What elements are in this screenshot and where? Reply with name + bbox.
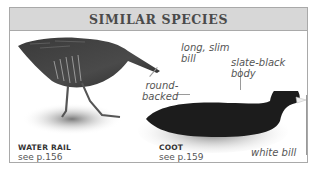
water-rail-name: WATER RAIL	[18, 143, 71, 152]
annotation-round-backed: round- backed	[142, 80, 178, 102]
section-title: SIMILAR SPECIES	[89, 12, 228, 27]
annotation-white-bill: white bill	[251, 147, 296, 158]
section-header: SIMILAR SPECIES	[10, 8, 307, 31]
coot-name: COOT	[159, 143, 183, 152]
water-rail-page-ref: see p.156	[18, 152, 62, 162]
species-panel: long, slim bill round- backed slate-blac…	[10, 31, 307, 162]
white-bill-pointer-line	[306, 95, 307, 155]
annotation-slate-black-body: slate-black body	[231, 57, 285, 79]
similar-species-box: SIMILAR SPECIES	[9, 7, 308, 163]
annotation-long-slim-bill: long, slim bill	[181, 42, 229, 64]
coot-page-ref: see p.159	[159, 152, 203, 162]
